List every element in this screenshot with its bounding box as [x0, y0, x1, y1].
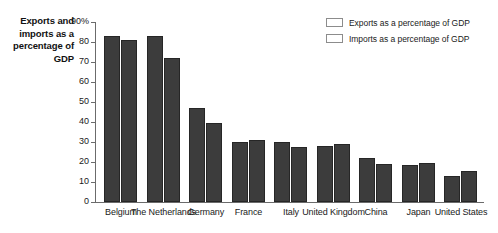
bar-exports	[274, 142, 290, 202]
y-axis-tick-mark	[91, 142, 96, 143]
y-axis-tick-mark	[91, 122, 96, 123]
bar-exports	[444, 176, 460, 202]
y-axis-tick-label: 30	[79, 136, 89, 146]
y-axis-tick-mark	[91, 102, 96, 103]
bar-imports	[334, 144, 350, 202]
y-axis-tick-mark	[91, 82, 96, 83]
y-axis-tick-label: 10	[79, 176, 89, 186]
y-axis-tick-label: 90%	[71, 16, 89, 26]
bar-imports	[291, 147, 307, 202]
bar-exports	[147, 36, 163, 202]
y-axis-tick-label: 20	[79, 156, 89, 166]
y-axis-tick-label: 0	[84, 196, 89, 206]
bar-imports	[121, 40, 137, 202]
y-axis-tick-mark	[91, 62, 96, 63]
bar-imports	[206, 123, 222, 202]
y-axis-line	[95, 22, 96, 203]
y-axis-tick-mark	[91, 162, 96, 163]
bar-imports	[461, 171, 477, 202]
y-axis-tick-label: 50	[79, 96, 89, 106]
y-axis-tick-mark	[91, 182, 96, 183]
bar-imports	[376, 164, 392, 202]
bar-exports	[359, 158, 375, 202]
x-axis-label: United States	[424, 207, 498, 218]
bar-imports	[419, 163, 435, 202]
plot-area: 90%80706050403020100 BelgiumThe Netherla…	[96, 22, 484, 202]
bar-exports	[104, 36, 120, 202]
bar-exports	[402, 165, 418, 202]
bar-exports	[232, 142, 248, 202]
y-axis-tick-mark	[91, 202, 96, 203]
y-axis-tick-label: 70	[79, 56, 89, 66]
page-title: Exports and imports as a percentage of G…	[2, 15, 74, 65]
y-axis-tick-label: 40	[79, 116, 89, 126]
y-axis-tick-mark	[91, 22, 96, 23]
y-axis-tick-label: 60	[79, 76, 89, 86]
bar-exports	[317, 146, 333, 202]
chart-figure: Exports and imports as a percentage of G…	[0, 0, 498, 233]
y-axis-tick-mark	[91, 42, 96, 43]
bar-imports	[249, 140, 265, 202]
y-axis-tick-label: 80	[79, 36, 89, 46]
x-axis-line	[95, 202, 484, 203]
bar-exports	[189, 108, 205, 202]
bar-imports	[164, 58, 180, 202]
